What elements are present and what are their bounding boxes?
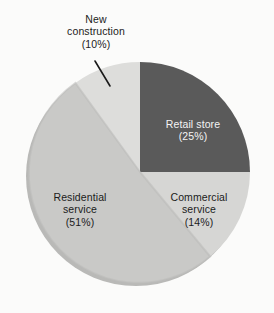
pie-label-new-construction-line1: New (37, 13, 155, 25)
pie-label-new-construction: New construction (10%) (37, 13, 155, 50)
pie-label-new-construction-value: (10%) (37, 38, 155, 50)
pie-label-commercial-service-value: (14%) (155, 216, 243, 228)
pie-label-residential-service-value: (51%) (33, 216, 127, 228)
pie-slice-retail-store (140, 62, 250, 172)
pie-label-retail-store-line1: Retail store (148, 118, 238, 130)
pie-label-retail-store-value: (25%) (148, 130, 238, 142)
pie-label-retail-store: Retail store (25%) (148, 118, 238, 143)
pie-chart-figure: New construction (10%) Retail store (25%… (0, 0, 274, 313)
pie-label-commercial-service-line2: service (155, 203, 243, 215)
pie-label-commercial-service-line1: Commercial (155, 191, 243, 203)
pie-label-new-construction-line2: construction (37, 25, 155, 37)
pie-label-residential-service: Residential service (51%) (33, 191, 127, 228)
pie-label-residential-service-line1: Residential (33, 191, 127, 203)
pie-label-commercial-service: Commercial service (14%) (155, 191, 243, 228)
pie-label-residential-service-line2: service (33, 203, 127, 215)
